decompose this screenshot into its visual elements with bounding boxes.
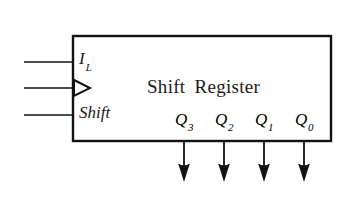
output-label-q1: Q1 [255, 110, 273, 131]
output-label-q1-base: Q [255, 110, 267, 129]
block-title-word-1: Shift [147, 76, 185, 97]
input-label-il-base: I [79, 49, 85, 68]
output-arrow-q3 [178, 141, 190, 182]
output-label-q2: Q2 [215, 110, 233, 131]
output-label-q2-base: Q [215, 110, 227, 129]
output-label-q3-base: Q [175, 110, 187, 129]
output-label-q3: Q3 [175, 110, 193, 131]
output-arrow-q0 [298, 141, 310, 182]
output-label-q1-subscript: 1 [268, 121, 274, 133]
output-arrow-q1 [258, 141, 270, 182]
output-label-q2-subscript: 2 [228, 121, 234, 133]
diagram-canvas [0, 0, 350, 201]
input-label-il-subscript: L [86, 61, 92, 73]
output-label-q0: Q0 [295, 110, 313, 131]
shift-register-diagram: IL Shift ShiftRegister Q3 Q2 Q1 Q0 [0, 0, 350, 201]
output-label-q0-base: Q [295, 110, 307, 129]
input-label-shift: Shift [79, 104, 110, 121]
output-label-q3-subscript: 3 [188, 121, 194, 133]
block-title-word-2: Register [194, 76, 260, 97]
block-title: ShiftRegister [147, 77, 260, 96]
input-label-il: IL [79, 50, 91, 70]
output-arrow-q2 [218, 141, 230, 182]
output-label-q0-subscript: 0 [308, 121, 314, 133]
